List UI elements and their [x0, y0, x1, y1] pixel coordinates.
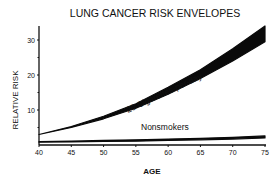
band-20-cigarettes: [39, 26, 265, 135]
x-tick-label: 60: [164, 149, 172, 156]
x-tick-label: 55: [132, 149, 140, 156]
axes: 1020304045505560657075: [27, 26, 269, 156]
x-tick-label: 50: [100, 149, 108, 156]
annotation-nonsmokers: Nonsmokers: [141, 122, 189, 132]
y-tick-label: 30: [27, 37, 35, 44]
chart-container: LUNG CANCER RISK ENVELOPES RELATIVE RISK…: [0, 0, 279, 179]
annotation-20-cigarettes: 20 Cigarettes-per-day: [125, 71, 204, 115]
x-tick-label: 40: [35, 149, 43, 156]
y-tick-label: 10: [27, 107, 35, 114]
band-nonsmokers: [39, 136, 265, 142]
x-tick-label: 75: [261, 149, 269, 156]
chart-title: LUNG CANCER RISK ENVELOPES: [70, 7, 240, 19]
x-tick-label: 65: [197, 149, 205, 156]
x-axis-label: AGE: [143, 167, 161, 176]
y-tick-label: 20: [27, 72, 35, 79]
y-axis-label: RELATIVE RISK: [11, 70, 20, 130]
line-chart: LUNG CANCER RISK ENVELOPES RELATIVE RISK…: [0, 0, 279, 179]
x-tick-label: 45: [67, 149, 75, 156]
x-tick-label: 70: [229, 149, 237, 156]
